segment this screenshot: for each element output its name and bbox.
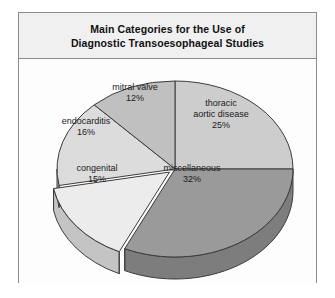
figure-title-band: Main Categories for the Use of Diagnosti… [19,13,316,59]
figure-root: Main Categories for the Use of Diagnosti… [0,0,335,298]
figure-title-line-1: Main Categories for the Use of [90,22,245,36]
figure-frame: Main Categories for the Use of Diagnosti… [18,12,317,283]
figure-title-line-2: Diagnostic Transoesophageal Studies [71,36,264,50]
pie-chart-svg [19,59,318,283]
pie-chart-area: thoracic aortic disease 25% miscellaneou… [19,59,316,283]
